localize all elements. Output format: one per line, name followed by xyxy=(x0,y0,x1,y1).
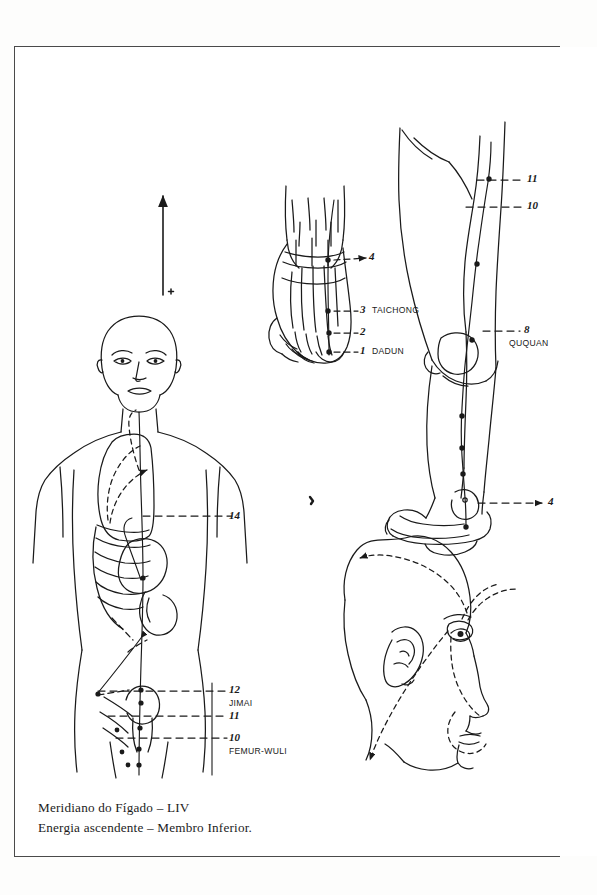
plate-page: 4 3 TAICHONG 2 1 DADUN 11 10 8 QUQUAN 4 … xyxy=(0,0,597,895)
point-name-femur-wuli: FEMUR-WULI xyxy=(229,746,287,756)
point-name-ququan: QUQUAN xyxy=(509,338,549,348)
point-label-torso-12: 12 xyxy=(229,683,240,695)
point-label-foot-2: 2 xyxy=(360,325,366,337)
point-label-torso-10: 10 xyxy=(229,731,240,743)
point-name-jimai: JIMAI xyxy=(229,698,252,708)
point-name-taichong: TAICHONG xyxy=(372,305,419,315)
point-label-leg-8: 8 xyxy=(524,323,530,335)
plate-border xyxy=(14,46,560,857)
point-name-dadun: DADUN xyxy=(372,346,404,356)
plate-caption-title: Meridiano do Fígado – LIV xyxy=(38,800,190,816)
point-label-torso-14: 14 xyxy=(229,509,240,521)
point-label-foot-4: 4 xyxy=(369,250,375,262)
point-label-leg-10: 10 xyxy=(527,199,538,211)
point-label-foot-3: 3 xyxy=(360,303,366,315)
point-label-leg-11: 11 xyxy=(527,172,537,184)
right-margin-mask xyxy=(559,47,597,856)
point-label-foot-1: 1 xyxy=(360,344,366,356)
plate-caption-subtitle: Energia ascendente – Membro Inferior. xyxy=(38,820,252,836)
point-label-leg-4: 4 xyxy=(548,495,554,507)
point-label-torso-11: 11 xyxy=(229,709,239,721)
